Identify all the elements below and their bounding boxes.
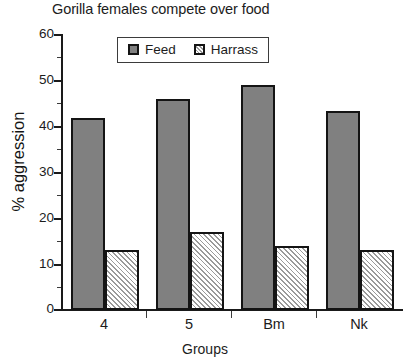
bar-feed-group-bm bbox=[241, 85, 275, 310]
bar-harrass-group-bm bbox=[275, 246, 309, 310]
y-minor-tick-15 bbox=[57, 241, 61, 242]
y-tick-30 bbox=[54, 172, 61, 174]
legend-entry-harrass: Harrass bbox=[194, 42, 258, 57]
y-tick-label-60: 60 bbox=[24, 27, 54, 41]
x-tick-2 bbox=[231, 311, 232, 318]
legend-entry-feed: Feed bbox=[128, 42, 176, 57]
y-minor-tick-25 bbox=[57, 195, 61, 196]
y-minor-tick-55 bbox=[57, 57, 61, 58]
bar-chart: Gorilla females compete over food % aggr… bbox=[0, 0, 410, 362]
legend-swatch-feed-icon bbox=[128, 44, 139, 55]
plot-area bbox=[62, 35, 400, 310]
y-tick-label-0: 0 bbox=[24, 302, 54, 316]
x-category-label-5: 5 bbox=[154, 316, 224, 332]
bar-feed-group-4 bbox=[71, 118, 105, 311]
y-tick-0 bbox=[54, 309, 61, 311]
y-tick-40 bbox=[54, 126, 61, 128]
y-tick-label-10: 10 bbox=[24, 257, 54, 271]
legend-label-feed: Feed bbox=[145, 42, 176, 57]
y-tick-60 bbox=[54, 34, 61, 36]
y-minor-tick-35 bbox=[57, 149, 61, 150]
legend-swatch-harrass-icon bbox=[194, 44, 205, 55]
y-tick-label-30: 30 bbox=[24, 165, 54, 179]
x-category-label-nk: Nk bbox=[324, 316, 394, 332]
bar-feed-group-5 bbox=[156, 99, 190, 310]
chart-title: Gorilla females compete over food bbox=[52, 1, 352, 17]
y-minor-tick-45 bbox=[57, 103, 61, 104]
y-tick-50 bbox=[54, 80, 61, 82]
bar-harrass-group-5 bbox=[190, 232, 224, 310]
x-tick-1 bbox=[146, 311, 147, 318]
legend-label-harrass: Harrass bbox=[211, 42, 258, 57]
x-category-label-bm: Bm bbox=[239, 316, 309, 332]
y-minor-tick-5 bbox=[57, 287, 61, 288]
y-tick-20 bbox=[54, 218, 61, 220]
y-tick-10 bbox=[54, 264, 61, 266]
x-axis-label: Groups bbox=[0, 341, 410, 357]
y-tick-label-40: 40 bbox=[24, 119, 54, 133]
x-category-label-4: 4 bbox=[69, 316, 139, 332]
bar-feed-group-nk bbox=[326, 111, 360, 310]
chart-legend: Feed Harrass bbox=[117, 37, 269, 63]
y-tick-label-50: 50 bbox=[24, 73, 54, 87]
bar-harrass-group-4 bbox=[105, 250, 139, 310]
x-tick-3 bbox=[316, 311, 317, 318]
y-tick-label-20: 20 bbox=[24, 211, 54, 225]
bar-harrass-group-nk bbox=[360, 250, 394, 310]
